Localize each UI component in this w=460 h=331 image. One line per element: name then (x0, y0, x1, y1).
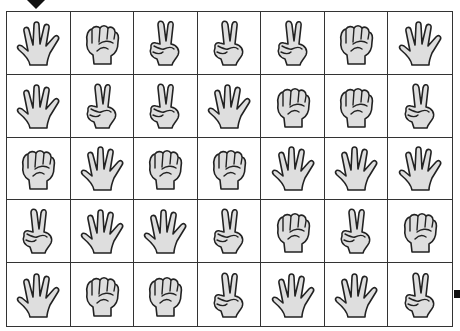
grid-cell[interactable] (261, 263, 325, 326)
grid-cell[interactable] (134, 263, 198, 326)
rock-hand-icon (395, 205, 445, 257)
paper-hand-icon (204, 80, 254, 132)
grid-cell[interactable] (134, 200, 198, 263)
rock-hand-icon (268, 205, 318, 257)
grid-cell[interactable] (71, 138, 135, 201)
scissors-hand-icon (331, 205, 381, 257)
start-arrow-icon (27, 0, 45, 9)
grid-cell[interactable] (71, 12, 135, 75)
grid-cell[interactable] (388, 200, 452, 263)
paper-hand-icon (395, 142, 445, 194)
grid-cell[interactable] (388, 138, 452, 201)
scissors-hand-icon (204, 269, 254, 321)
scissors-hand-icon (140, 17, 190, 69)
scissors-hand-icon (204, 17, 254, 69)
grid-cell[interactable] (198, 138, 262, 201)
grid-cell[interactable] (7, 138, 71, 201)
grid-cell[interactable] (325, 138, 389, 201)
paper-hand-icon (268, 142, 318, 194)
grid-cell[interactable] (261, 138, 325, 201)
paper-hand-icon (77, 205, 127, 257)
scissors-hand-icon (395, 269, 445, 321)
grid-cell[interactable] (388, 263, 452, 326)
paper-hand-icon (13, 17, 63, 69)
scissors-hand-icon (395, 80, 445, 132)
paper-hand-icon (13, 80, 63, 132)
scissors-hand-icon (204, 205, 254, 257)
grid-cell[interactable] (261, 75, 325, 138)
rock-hand-icon (140, 142, 190, 194)
grid-cell[interactable] (7, 12, 71, 75)
grid-cell[interactable] (325, 263, 389, 326)
goal-marker-icon (454, 290, 460, 298)
grid-cell[interactable] (71, 200, 135, 263)
paper-hand-icon (140, 205, 190, 257)
paper-hand-icon (268, 269, 318, 321)
grid-cell[interactable] (198, 12, 262, 75)
grid-cell[interactable] (7, 75, 71, 138)
rock-hand-icon (331, 80, 381, 132)
scissors-hand-icon (77, 80, 127, 132)
grid-cell[interactable] (388, 75, 452, 138)
grid-cell[interactable] (325, 75, 389, 138)
grid-cell[interactable] (388, 12, 452, 75)
grid-cell[interactable] (261, 200, 325, 263)
scissors-hand-icon (268, 17, 318, 69)
rock-hand-icon (77, 269, 127, 321)
rock-hand-icon (268, 80, 318, 132)
grid-cell[interactable] (71, 75, 135, 138)
grid-cell[interactable] (198, 75, 262, 138)
rock-hand-icon (204, 142, 254, 194)
scissors-hand-icon (140, 80, 190, 132)
paper-hand-icon (331, 269, 381, 321)
scissors-hand-icon (13, 205, 63, 257)
grid-cell[interactable] (325, 12, 389, 75)
grid-cell[interactable] (325, 200, 389, 263)
grid-cell[interactable] (198, 263, 262, 326)
rock-hand-icon (140, 269, 190, 321)
grid-cell[interactable] (71, 263, 135, 326)
grid-cell[interactable] (7, 200, 71, 263)
grid-cell[interactable] (198, 200, 262, 263)
grid-cell[interactable] (134, 138, 198, 201)
rock-hand-icon (13, 142, 63, 194)
paper-hand-icon (13, 269, 63, 321)
rock-hand-icon (77, 17, 127, 69)
puzzle-grid (6, 11, 453, 327)
grid-cell[interactable] (134, 75, 198, 138)
grid-cell[interactable] (134, 12, 198, 75)
paper-hand-icon (77, 142, 127, 194)
grid-cell[interactable] (7, 263, 71, 326)
rock-hand-icon (331, 17, 381, 69)
paper-hand-icon (395, 17, 445, 69)
paper-hand-icon (331, 142, 381, 194)
grid-cell[interactable] (261, 12, 325, 75)
